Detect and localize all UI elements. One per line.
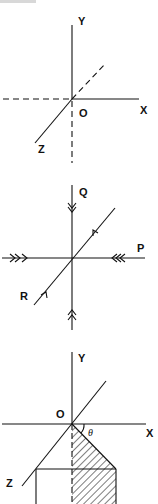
label-q: Q xyxy=(79,186,88,198)
cut-off-text-fragment xyxy=(0,0,36,3)
label-theta: θ xyxy=(88,427,93,438)
label-r: R xyxy=(20,290,28,302)
label-z: Z xyxy=(38,143,45,155)
z-axis xyxy=(35,99,72,143)
figure-three-forces xyxy=(2,185,145,330)
label-origin: O xyxy=(79,107,88,119)
figure-rotated-plane xyxy=(2,352,146,504)
diagram-canvas: Y X Z O Q P R xyxy=(0,0,158,504)
diagonal-lower-arrow-icon xyxy=(41,292,47,298)
label-p: P xyxy=(137,242,144,254)
angle-arc xyxy=(81,424,84,433)
diagonal-line xyxy=(34,208,115,305)
z-axis-negative-dashed xyxy=(72,65,104,99)
hatched-region xyxy=(72,424,116,504)
label-y: Y xyxy=(78,15,86,27)
label-x-3: X xyxy=(146,427,154,439)
label-origin-3: O xyxy=(56,408,65,420)
label-x: X xyxy=(140,104,148,116)
figure-axes-xyz xyxy=(3,25,139,163)
label-z-3: Z xyxy=(6,477,13,489)
label-y-3: Y xyxy=(78,352,86,364)
